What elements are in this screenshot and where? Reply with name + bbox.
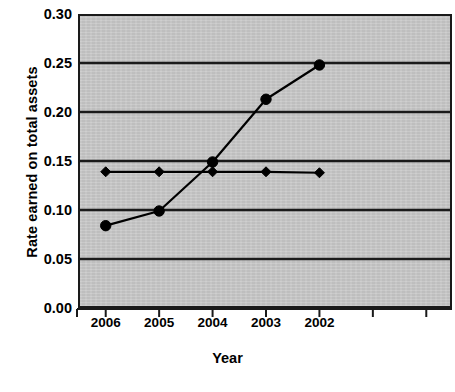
data-series <box>101 167 325 178</box>
data-series <box>101 60 325 231</box>
chart-vector-layer <box>0 0 455 392</box>
data-point-marker <box>261 94 271 104</box>
x-tick-label: 2002 <box>289 316 349 330</box>
x-axis-title: Year <box>0 350 455 366</box>
x-tick-label: 2003 <box>236 316 296 330</box>
data-point-marker <box>314 60 324 70</box>
chart-figure: Rate earned on total assets 0.30 0.25 0.… <box>0 0 455 392</box>
x-tick-label: 2004 <box>183 316 243 330</box>
data-point-marker <box>208 167 218 177</box>
data-point-marker <box>154 206 164 216</box>
data-point-marker <box>101 167 111 177</box>
x-tick-label: 2006 <box>76 316 136 330</box>
data-point-marker <box>261 167 271 177</box>
x-tick-label: 2005 <box>129 316 189 330</box>
data-point-marker <box>101 220 111 230</box>
data-point-marker <box>314 168 324 178</box>
data-series-layer <box>101 60 325 231</box>
gridlines <box>78 63 452 259</box>
data-point-marker <box>207 157 217 167</box>
data-point-marker <box>154 167 164 177</box>
series-line <box>106 65 320 226</box>
